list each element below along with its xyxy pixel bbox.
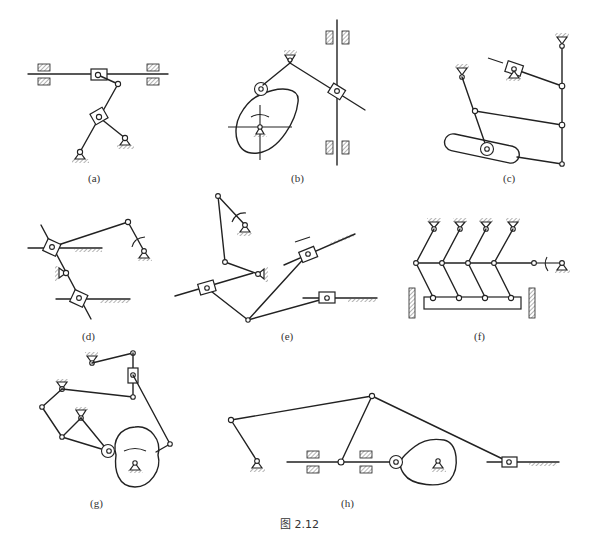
panel-label-a: (a)	[88, 172, 101, 185]
panel-label-b: (b)	[291, 172, 304, 185]
panel-label-h: (h)	[341, 497, 354, 510]
cam	[236, 89, 298, 153]
panel-label-e: (e)	[281, 330, 294, 343]
cam	[400, 439, 456, 484]
guide-icon	[38, 78, 50, 85]
sliding-table	[424, 297, 521, 309]
panel-label-d: (d)	[82, 330, 95, 343]
mechanism-figure: (a) (b)	[0, 0, 597, 549]
ground-pivot-icon	[72, 149, 89, 163]
motion-arrow-icon	[488, 58, 503, 63]
panel-h: (h)	[228, 393, 559, 510]
panel-f: (f)	[409, 218, 570, 343]
panel-b: (b)	[228, 20, 365, 185]
guide-icon	[147, 78, 159, 85]
panel-label-f: (f)	[474, 330, 485, 343]
rotation-arrow-icon	[545, 257, 548, 271]
panel-d: (d)	[28, 219, 152, 343]
ground-pivot-icon	[117, 135, 134, 149]
panel-c: (c)	[443, 33, 569, 185]
rotation-arrow-icon	[124, 449, 146, 452]
panel-a: (a)	[28, 64, 168, 185]
guide-icon	[147, 64, 159, 71]
panel-label-g: (g)	[90, 497, 103, 510]
panel-e: (e)	[175, 194, 377, 343]
motion-arrow-icon	[295, 237, 310, 242]
figure-caption: 图 2.12	[280, 518, 319, 531]
panel-label-c: (c)	[503, 172, 516, 185]
cam	[115, 427, 159, 487]
panel-g: (g)	[40, 351, 173, 510]
guide-icon	[38, 64, 50, 71]
